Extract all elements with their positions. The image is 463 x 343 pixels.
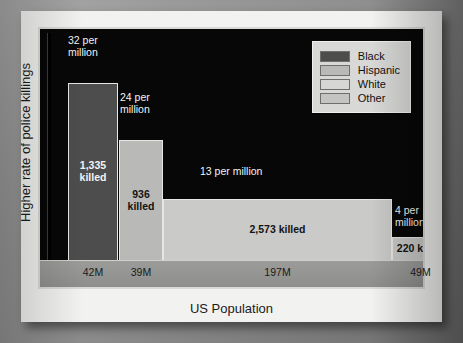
legend-item-other: Other <box>320 92 400 104</box>
bar-value-label-other: 220 killed <box>395 243 423 255</box>
bar-value-label-white: 2,573 killed <box>247 224 307 236</box>
legend-swatch-other <box>320 93 350 104</box>
scan-background: Higher rate of police killings 32 per mi… <box>0 0 463 343</box>
legend-label-white: White <box>358 78 386 90</box>
legend-label-hispanic: Hispanic <box>358 64 400 76</box>
x-tick-42m: 42M <box>68 266 118 278</box>
chart-card: Higher rate of police killings 32 per mi… <box>21 11 442 322</box>
legend-swatch-black <box>320 51 350 62</box>
x-axis-title-text: US Population <box>190 301 273 316</box>
x-tick-197m: 197M <box>163 266 392 278</box>
legend: Black Hispanic White Other <box>312 41 411 113</box>
legend-item-black: Black <box>320 50 400 62</box>
legend-swatch-white <box>320 79 350 90</box>
bar-rate-label-black: 32 per million <box>68 35 98 59</box>
x-axis-title: US Population <box>21 301 442 316</box>
bar-rate-label-other: 4 per million <box>395 205 423 229</box>
legend-item-white: White <box>320 78 400 90</box>
x-tick-39m: 39M <box>119 266 163 278</box>
bar-black: 1,335 killed <box>68 83 118 261</box>
x-tick-49m: 49M <box>392 266 449 278</box>
bar-white: 2,573 killed <box>163 199 392 261</box>
legend-item-hispanic: Hispanic <box>320 64 400 76</box>
bar-other: 220 killed <box>392 237 423 261</box>
y-axis-title: Higher rate of police killings <box>17 11 33 273</box>
y-axis-spine <box>47 33 51 261</box>
bar-hispanic: 936 killed <box>119 140 163 261</box>
bar-rate-label-white: 13 per million <box>200 166 262 178</box>
plot-area: 32 per million 1,335 killed 24 per milli… <box>40 29 423 261</box>
x-axis-strip: 42M 39M 197M 49M <box>40 260 423 287</box>
legend-swatch-hispanic <box>320 65 350 76</box>
bar-value-label-black: 1,335 killed <box>69 160 117 184</box>
plot-frame: 32 per million 1,335 killed 24 per milli… <box>38 27 425 289</box>
bar-rate-label-hispanic: 24 per million <box>120 92 150 116</box>
bar-value-label-hispanic: 936 killed <box>120 189 162 213</box>
y-axis-title-text: Higher rate of police killings <box>18 63 33 222</box>
legend-label-other: Other <box>358 92 386 104</box>
legend-label-black: Black <box>358 50 385 62</box>
